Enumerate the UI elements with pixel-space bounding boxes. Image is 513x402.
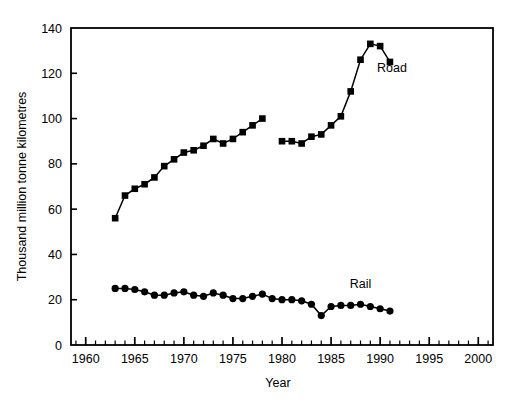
data-point-circle bbox=[200, 293, 207, 300]
data-point-circle bbox=[239, 295, 246, 302]
data-point-square bbox=[131, 185, 138, 192]
data-point-circle bbox=[121, 285, 128, 292]
data-point-square bbox=[298, 140, 305, 147]
x-tick-label: 1960 bbox=[72, 352, 100, 366]
data-point-circle bbox=[367, 303, 374, 310]
data-point-circle bbox=[112, 285, 119, 292]
data-point-square bbox=[239, 129, 246, 136]
x-tick-label: 1975 bbox=[219, 352, 247, 366]
data-point-circle bbox=[269, 295, 276, 302]
clipped-page-header bbox=[0, 0, 513, 6]
x-tick-label: 1985 bbox=[317, 352, 345, 366]
data-point-circle bbox=[220, 292, 227, 299]
data-point-circle bbox=[180, 288, 187, 295]
y-tick-label: 120 bbox=[41, 67, 62, 81]
x-tick-label: 1980 bbox=[268, 352, 296, 366]
data-point-circle bbox=[377, 305, 384, 312]
data-point-circle bbox=[327, 303, 334, 310]
data-point-circle bbox=[259, 290, 266, 297]
x-tick-label: 1995 bbox=[415, 352, 443, 366]
data-point-square bbox=[122, 192, 129, 199]
y-tick-label: 140 bbox=[41, 22, 62, 36]
data-point-circle bbox=[357, 301, 364, 308]
data-point-square bbox=[112, 215, 119, 222]
data-point-square bbox=[289, 138, 296, 145]
chart-canvas: 0204060801001201401960196519701975198019… bbox=[0, 0, 513, 402]
series-road bbox=[112, 41, 393, 222]
data-point-circle bbox=[190, 292, 197, 299]
data-point-circle bbox=[210, 289, 217, 296]
data-point-square bbox=[220, 140, 227, 147]
data-point-square bbox=[161, 163, 168, 170]
data-point-square bbox=[249, 122, 256, 129]
y-tick-label: 80 bbox=[48, 157, 62, 171]
data-point-square bbox=[347, 88, 354, 95]
y-tick-label: 100 bbox=[41, 112, 62, 126]
data-point-square bbox=[210, 136, 217, 143]
data-point-square bbox=[279, 138, 286, 145]
y-tick-label: 0 bbox=[55, 339, 62, 353]
data-point-square bbox=[141, 181, 148, 188]
x-tick-label: 1990 bbox=[366, 352, 394, 366]
data-point-square bbox=[230, 136, 237, 143]
data-point-circle bbox=[141, 288, 148, 295]
data-point-square bbox=[367, 41, 374, 48]
data-point-circle bbox=[151, 292, 158, 299]
data-point-circle bbox=[249, 293, 256, 300]
data-point-square bbox=[171, 156, 178, 163]
data-point-square bbox=[318, 131, 325, 138]
data-point-square bbox=[328, 122, 335, 129]
x-tick-label: 1970 bbox=[170, 352, 198, 366]
series-line bbox=[282, 44, 390, 144]
y-tick-label: 20 bbox=[48, 293, 62, 307]
data-point-square bbox=[357, 56, 364, 63]
series-label-rail: Rail bbox=[350, 277, 372, 291]
data-point-square bbox=[308, 133, 315, 140]
data-point-circle bbox=[318, 312, 325, 319]
y-tick-label: 60 bbox=[48, 203, 62, 217]
y-tick-label: 40 bbox=[48, 248, 62, 262]
data-point-square bbox=[377, 43, 384, 50]
data-point-square bbox=[259, 115, 266, 122]
data-point-square bbox=[190, 147, 197, 154]
data-point-square bbox=[151, 174, 158, 181]
data-point-square bbox=[338, 113, 345, 120]
series-label-road: Road bbox=[377, 61, 407, 75]
y-axis-title: Thousand million tonne kilometres bbox=[15, 92, 29, 282]
data-point-circle bbox=[288, 296, 295, 303]
data-point-circle bbox=[386, 307, 393, 314]
data-point-square bbox=[181, 149, 188, 156]
data-point-circle bbox=[347, 302, 354, 309]
x-tick-label: 2000 bbox=[464, 352, 492, 366]
freight-transport-line-chart: 0204060801001201401960196519701975198019… bbox=[0, 0, 513, 402]
data-point-circle bbox=[278, 296, 285, 303]
x-tick-label: 1965 bbox=[121, 352, 149, 366]
data-point-circle bbox=[131, 286, 138, 293]
data-point-circle bbox=[229, 295, 236, 302]
data-point-circle bbox=[337, 302, 344, 309]
data-point-square bbox=[200, 142, 207, 149]
x-axis-title: Year bbox=[265, 376, 290, 390]
data-point-circle bbox=[161, 292, 168, 299]
data-point-circle bbox=[298, 297, 305, 304]
data-point-circle bbox=[170, 289, 177, 296]
data-point-circle bbox=[308, 301, 315, 308]
